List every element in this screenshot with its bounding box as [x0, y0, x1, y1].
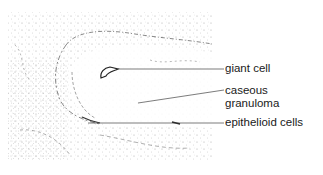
tissue-drawing	[0, 0, 323, 175]
label-granuloma: granuloma	[225, 97, 279, 110]
label-giant-cell: giant cell	[225, 62, 270, 75]
granuloma-diagram: giant cell caseous granuloma epithelioid…	[0, 0, 323, 175]
label-epithelioid-cells: epithelioid cells	[225, 116, 303, 129]
caseous-center	[69, 44, 212, 128]
label-caseous: caseous	[225, 84, 268, 97]
